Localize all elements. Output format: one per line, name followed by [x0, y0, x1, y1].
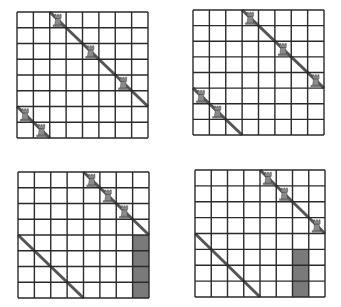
chessboard-3 — [18, 172, 149, 298]
shaded-cell — [293, 249, 309, 265]
shaded-cell — [293, 281, 309, 297]
shaded-cell — [133, 282, 149, 298]
chessboard-2 — [193, 10, 324, 135]
shaded-cell — [133, 251, 149, 267]
chessboard-1 — [17, 12, 148, 138]
shaded-cell — [293, 265, 309, 281]
chessboard-4 — [195, 170, 325, 297]
shaded-cell — [133, 235, 149, 251]
shaded-cell — [133, 267, 149, 283]
